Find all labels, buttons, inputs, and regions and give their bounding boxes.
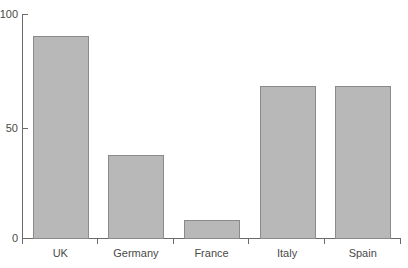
x-category-label-uk: UK [53, 247, 69, 259]
x-category-label-france: France [194, 247, 228, 259]
x-category-label-italy: Italy [277, 247, 298, 259]
bar-spain [336, 86, 391, 238]
bar-chart-figure: 100 50 0 UK Germany France Italy Spain [0, 0, 408, 268]
chart-canvas: 100 50 0 UK Germany France Italy Spain [0, 0, 408, 268]
y-tick-label-0: 0 [12, 232, 18, 244]
bar-italy [261, 86, 316, 238]
x-category-label-spain: Spain [349, 247, 377, 259]
bar-uk [34, 37, 89, 239]
y-tick-label-100: 100 [0, 8, 18, 20]
bar-germany [109, 156, 164, 239]
y-tick-label-50: 50 [6, 122, 18, 134]
x-category-label-germany: Germany [113, 247, 159, 259]
bar-france [185, 221, 240, 239]
